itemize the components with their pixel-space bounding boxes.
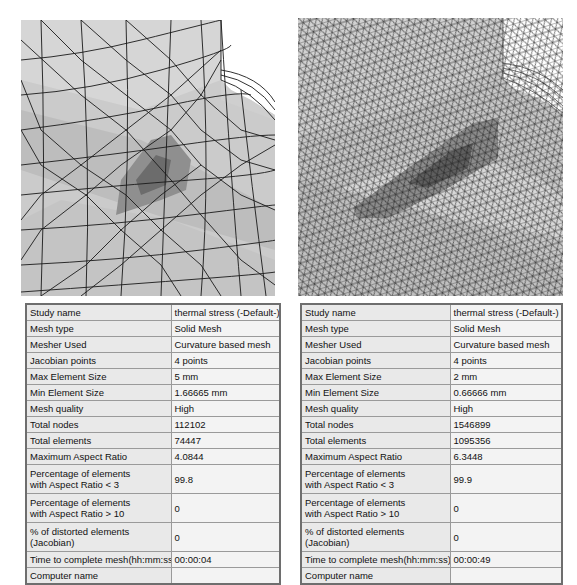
table-row: Maximum Aspect Ratio4.0844 xyxy=(26,449,280,465)
row-label: Percentage of elementswith Aspect Ratio … xyxy=(301,465,450,494)
table-row: Maximum Aspect Ratio6.3448 xyxy=(301,449,562,465)
row-label: Percentage of elementswith Aspect Ratio … xyxy=(26,465,171,494)
row-label-line: Percentage of elements xyxy=(305,497,405,508)
row-label-line: with Aspect Ratio > 10 xyxy=(30,508,124,519)
coarse-mesh-view xyxy=(21,20,275,296)
table-row: Computer name xyxy=(26,568,280,585)
table-row: Percentage of elementswith Aspect Ratio … xyxy=(26,465,280,494)
mesh-render-fine xyxy=(298,18,563,296)
row-label: Mesher Used xyxy=(301,337,450,353)
row-value: thermal stress (-Default-) xyxy=(450,304,562,321)
row-value: 4 points xyxy=(171,353,280,369)
row-value: Curvature based mesh xyxy=(450,337,562,353)
row-value: High xyxy=(450,401,562,417)
table-row: Total nodes112102 xyxy=(26,417,280,433)
coarse-mesh-properties-table: Study namethermal stress (-Default-) Mes… xyxy=(25,303,281,585)
table-row: Mesh typeSolid Mesh xyxy=(26,321,280,337)
row-label: Max Element Size xyxy=(26,369,171,385)
row-label-line: with Aspect Ratio < 3 xyxy=(30,479,119,490)
row-value: 0 xyxy=(450,523,562,552)
table-row: Study namethermal stress (-Default-) xyxy=(301,304,562,321)
fine-mesh-view xyxy=(298,18,563,296)
row-label: Total elements xyxy=(301,433,450,449)
row-label: Max Element Size xyxy=(301,369,450,385)
row-label: Mesh type xyxy=(26,321,171,337)
row-label: Percentage of elementswith Aspect Ratio … xyxy=(26,494,171,523)
row-value: Curvature based mesh xyxy=(171,337,280,353)
table-row: Jacobian points4 points xyxy=(26,353,280,369)
row-label: Computer name xyxy=(301,568,450,585)
row-value: 112102 xyxy=(171,417,280,433)
row-value: thermal stress (-Default-) xyxy=(171,304,280,321)
table-row: Mesh qualityHigh xyxy=(301,401,562,417)
row-label: Computer name xyxy=(26,568,171,585)
table-row: Mesher UsedCurvature based mesh xyxy=(26,337,280,353)
row-label-line: with Aspect Ratio > 10 xyxy=(305,508,399,519)
row-label-line: Percentage of elements xyxy=(30,497,130,508)
row-label: Maximum Aspect Ratio xyxy=(301,449,450,465)
row-value: 1546899 xyxy=(450,417,562,433)
table-row: Percentage of elementswith Aspect Ratio … xyxy=(301,494,562,523)
row-label-line: Percentage of elements xyxy=(30,468,130,479)
row-label-line: (Jacobian) xyxy=(30,537,74,548)
row-label-line: with Aspect Ratio < 3 xyxy=(305,479,394,490)
row-label-line: (Jacobian) xyxy=(305,537,349,548)
row-label: Maximum Aspect Ratio xyxy=(26,449,171,465)
row-value: 99.9 xyxy=(450,465,562,494)
fine-mesh-properties-table: Study namethermal stress (-Default-) Mes… xyxy=(300,303,563,585)
row-value: 00:00:49 xyxy=(450,552,562,568)
table-row: Max Element Size2 mm xyxy=(301,369,562,385)
table-row: Min Element Size0.66666 mm xyxy=(301,385,562,401)
row-value: 6.3448 xyxy=(450,449,562,465)
row-label: Study name xyxy=(301,304,450,321)
table-row: Mesh typeSolid Mesh xyxy=(301,321,562,337)
row-value: Solid Mesh xyxy=(450,321,562,337)
row-value: Solid Mesh xyxy=(171,321,280,337)
table-row: Time to complete mesh(hh:mm:ss)00:00:04 xyxy=(26,552,280,568)
row-value xyxy=(450,568,562,585)
row-value: 0 xyxy=(171,523,280,552)
row-label: Jacobian points xyxy=(26,353,171,369)
row-label: Min Element Size xyxy=(26,385,171,401)
table-row: Computer name xyxy=(301,568,562,585)
row-label-line: % of distorted elements xyxy=(305,526,404,537)
table-row: Min Element Size1.66665 mm xyxy=(26,385,280,401)
table-row: Study namethermal stress (-Default-) xyxy=(26,304,280,321)
row-label: Mesh quality xyxy=(301,401,450,417)
table-row: Total elements1095356 xyxy=(301,433,562,449)
table-row: Percentage of elementswith Aspect Ratio … xyxy=(26,494,280,523)
row-label: Time to complete mesh(hh:mm:ss) xyxy=(26,552,171,568)
table-row: Time to complete mesh(hh:mm:ss)00:00:49 xyxy=(301,552,562,568)
table-row: Mesher UsedCurvature based mesh xyxy=(301,337,562,353)
row-label: Total elements xyxy=(26,433,171,449)
row-label: Total nodes xyxy=(301,417,450,433)
row-value: 0 xyxy=(450,494,562,523)
table-row: Mesh qualityHigh xyxy=(26,401,280,417)
row-label: Mesh type xyxy=(301,321,450,337)
table-row: Max Element Size5 mm xyxy=(26,369,280,385)
row-label: Mesh quality xyxy=(26,401,171,417)
row-label-line: Percentage of elements xyxy=(305,468,405,479)
row-value: 0.66666 mm xyxy=(450,385,562,401)
mesh-render-coarse xyxy=(21,20,275,296)
row-value: 00:00:04 xyxy=(171,552,280,568)
table-row: % of distorted elements(Jacobian)0 xyxy=(26,523,280,552)
row-label: Mesher Used xyxy=(26,337,171,353)
row-value: 5 mm xyxy=(171,369,280,385)
row-label: Total nodes xyxy=(26,417,171,433)
row-label: % of distorted elements(Jacobian) xyxy=(26,523,171,552)
row-label: Jacobian points xyxy=(301,353,450,369)
table-row: Total nodes1546899 xyxy=(301,417,562,433)
row-label: Percentage of elementswith Aspect Ratio … xyxy=(301,494,450,523)
table-row: Percentage of elementswith Aspect Ratio … xyxy=(301,465,562,494)
table-row: % of distorted elements(Jacobian)0 xyxy=(301,523,562,552)
row-label: % of distorted elements(Jacobian) xyxy=(301,523,450,552)
row-value: 4 points xyxy=(450,353,562,369)
row-label: Min Element Size xyxy=(301,385,450,401)
row-label: Time to complete mesh(hh:mm:ss) xyxy=(301,552,450,568)
row-value xyxy=(171,568,280,585)
row-value: High xyxy=(171,401,280,417)
row-label-line: % of distorted elements xyxy=(30,526,129,537)
row-value: 2 mm xyxy=(450,369,562,385)
row-value: 74447 xyxy=(171,433,280,449)
